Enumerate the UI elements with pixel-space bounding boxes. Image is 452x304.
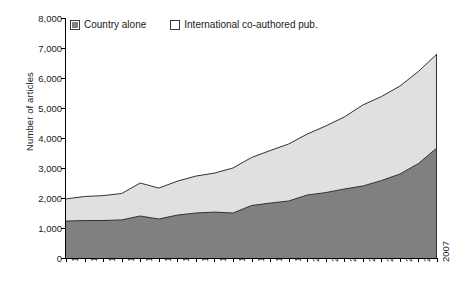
x-tick-mark <box>418 258 419 262</box>
x-tick-mark <box>307 258 308 262</box>
y-tick-label: 8,000 <box>0 14 62 23</box>
legend-swatch-light-icon <box>170 20 180 30</box>
x-tick-mark <box>400 258 401 262</box>
x-tick-mark <box>381 258 382 262</box>
legend-swatch-dark-icon <box>70 20 80 30</box>
x-tick-mark <box>289 258 290 262</box>
x-tick-mark <box>85 258 86 262</box>
x-tick-mark <box>437 258 438 262</box>
y-tick-label: 4,000 <box>0 134 62 143</box>
x-tick-mark <box>66 258 67 262</box>
x-tick-mark <box>103 258 104 262</box>
legend-item-international: International co-authored pub. <box>170 19 317 30</box>
y-tick-label: 1,000 <box>0 224 62 233</box>
x-tick-mark <box>177 258 178 262</box>
x-tick-label-2007: 2007 <box>441 241 451 262</box>
x-tick-mark <box>140 258 141 262</box>
x-tick-mark <box>363 258 364 262</box>
y-tick-label: 3,000 <box>0 164 62 173</box>
area-series-svg <box>66 18 437 258</box>
x-tick-mark <box>214 258 215 262</box>
chart-legend: Country alone International co-authored … <box>70 19 318 30</box>
y-tick-label: 6,000 <box>0 74 62 83</box>
x-tick-mark <box>326 258 327 262</box>
x-tick-mark <box>122 258 123 262</box>
legend-label-country-alone: Country alone <box>84 19 146 30</box>
y-tick-label: 2,000 <box>0 194 62 203</box>
y-tick-label: 5,000 <box>0 104 62 113</box>
stacked-area-chart: Number of articles 01,0002,0003,0004,000… <box>0 0 452 304</box>
x-tick-mark <box>233 258 234 262</box>
y-tick-label: 7,000 <box>0 44 62 53</box>
x-tick-mark <box>196 258 197 262</box>
legend-label-international: International co-authored pub. <box>184 19 317 30</box>
x-tick-mark <box>252 258 253 262</box>
x-tick-mark <box>344 258 345 262</box>
x-tick-mark <box>159 258 160 262</box>
legend-item-country-alone: Country alone <box>70 19 146 30</box>
plot-area <box>66 18 437 258</box>
x-tick-mark <box>270 258 271 262</box>
y-tick-label: 0 <box>0 254 62 263</box>
